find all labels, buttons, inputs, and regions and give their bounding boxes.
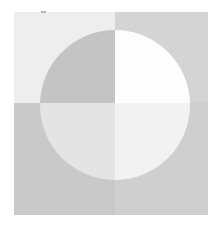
figure-canvas	[0, 0, 223, 231]
panel-group	[14, 12, 208, 215]
figure-svg	[0, 0, 223, 231]
circle-quadrants	[40, 30, 190, 180]
corner-speck-mark	[41, 11, 46, 13]
